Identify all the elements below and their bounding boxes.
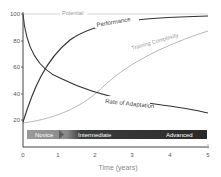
rate-of-adaptation-series: Rate of Adaptation [23, 14, 208, 113]
potential-label: Potential [62, 10, 83, 16]
x-axis: 0 1 2 3 4 5 Time (years) [21, 144, 210, 172]
y-tick-40: 40 [13, 91, 20, 97]
phase-advanced: Advanced [166, 132, 193, 138]
potential-series: Potential [23, 9, 208, 17]
y-axis: 100 80 60 40 20 [10, 11, 23, 147]
y-tick-100: 100 [10, 11, 21, 17]
phase-band: Novice Intermediate Advanced [27, 130, 207, 139]
performance-series: Performance [23, 16, 208, 122]
x-tick-2: 2 [93, 152, 97, 158]
y-tick-80: 80 [13, 38, 20, 44]
x-tick-1: 1 [56, 152, 60, 158]
training-complexity-series: Training Complexity [23, 31, 208, 123]
x-tick-4: 4 [168, 152, 172, 158]
x-tick-5: 5 [206, 152, 210, 158]
x-tick-0: 0 [21, 152, 25, 158]
phase-novice: Novice [35, 132, 54, 138]
phase-intermediate: Intermediate [78, 132, 112, 138]
training-complexity-label: Training Complexity [131, 32, 179, 51]
chart: Potential Training Complexity Rate of Ad… [0, 0, 221, 177]
y-tick-20: 20 [13, 117, 20, 123]
x-tick-3: 3 [130, 152, 134, 158]
x-axis-label: Time (years) [98, 164, 137, 172]
y-tick-60: 60 [13, 64, 20, 70]
